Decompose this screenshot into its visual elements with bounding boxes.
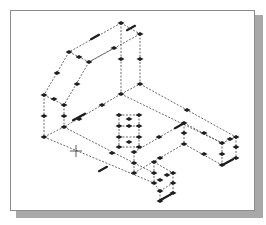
grip-icon[interactable] — [116, 135, 123, 139]
dashed-edge[interactable] — [121, 84, 140, 94]
grip-icon[interactable] — [156, 135, 163, 139]
dashed-edge[interactable] — [44, 127, 64, 137]
grip-icon[interactable] — [118, 57, 125, 61]
grip-icon[interactable] — [136, 145, 143, 149]
grip-icon[interactable] — [54, 71, 61, 75]
grip-icon[interactable] — [164, 173, 171, 177]
grip-icon[interactable] — [126, 117, 133, 121]
grip-icon[interactable] — [109, 151, 116, 155]
grip-icon[interactable] — [126, 124, 133, 128]
midpoint-grip-icon[interactable] — [91, 35, 99, 39]
grip-icon[interactable] — [41, 114, 48, 118]
grip-icon[interactable] — [116, 124, 123, 128]
midpoint-grip-icon[interactable] — [99, 167, 107, 171]
grip-icon[interactable] — [227, 137, 234, 141]
grip-icon[interactable] — [151, 171, 158, 175]
grip-icon[interactable] — [157, 178, 164, 182]
crosshair-cursor-icon — [70, 145, 82, 157]
dashed-edge[interactable] — [44, 137, 154, 183]
grip-icon[interactable] — [74, 82, 81, 86]
grip-icon[interactable] — [181, 131, 188, 135]
grip-icon[interactable] — [126, 140, 133, 144]
grip-icon[interactable] — [131, 161, 138, 165]
grip-icon[interactable] — [219, 152, 226, 156]
grip-icon[interactable] — [41, 93, 48, 97]
midpoint-grip-icon[interactable] — [175, 124, 183, 128]
grip-icon[interactable] — [61, 103, 68, 107]
grip-icon[interactable] — [233, 145, 240, 149]
midpoint-grip-icon[interactable] — [127, 26, 135, 30]
midpoint-grip-icon[interactable] — [161, 194, 171, 200]
grip-icon[interactable] — [118, 92, 125, 96]
grip-icon[interactable] — [41, 135, 48, 139]
grip-icon[interactable] — [181, 142, 188, 146]
grip-icon[interactable] — [131, 171, 138, 175]
selected-edges — [44, 23, 236, 201]
dashed-edge[interactable] — [160, 183, 173, 191]
grip-icon[interactable] — [61, 114, 68, 118]
grip-icon[interactable] — [201, 152, 208, 156]
grip-icon[interactable] — [137, 57, 144, 61]
grip-icon[interactable] — [116, 145, 123, 149]
grip-icon[interactable] — [51, 97, 58, 101]
dashed-edge[interactable] — [64, 127, 134, 163]
isometric-wireframe[interactable] — [0, 0, 266, 225]
midpoint-grip-icon[interactable] — [223, 159, 233, 165]
dashed-edge[interactable] — [154, 162, 173, 173]
grip-icon[interactable] — [118, 21, 125, 25]
grip-icon[interactable] — [157, 189, 164, 193]
grip-icon[interactable] — [151, 160, 158, 164]
grip-icon[interactable] — [116, 113, 123, 117]
grip-icon[interactable] — [136, 124, 143, 128]
grip-icon[interactable] — [131, 150, 138, 154]
dashed-edge[interactable] — [64, 94, 121, 127]
grip-icon[interactable] — [136, 135, 143, 139]
grip-icon[interactable] — [136, 113, 143, 117]
